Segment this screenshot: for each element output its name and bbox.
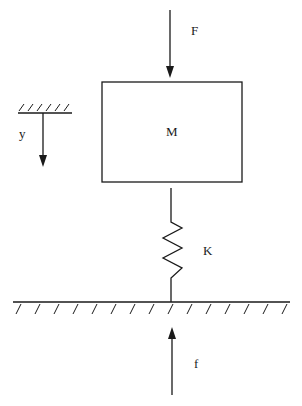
label-f: f <box>194 357 198 370</box>
label-F: F <box>191 24 198 37</box>
label-M: M <box>166 125 178 138</box>
spring <box>163 188 182 302</box>
label-K: K <box>203 244 212 257</box>
force-f-arrow <box>168 327 176 395</box>
reference-support <box>18 104 72 113</box>
label-y: y <box>19 127 26 140</box>
mass-spring-diagram <box>0 0 302 406</box>
force-F-arrow <box>166 10 174 78</box>
displacement-y-arrow <box>39 113 47 167</box>
ground <box>13 302 290 314</box>
